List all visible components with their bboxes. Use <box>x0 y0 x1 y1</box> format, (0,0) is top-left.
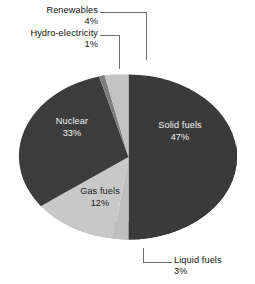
slice-label-solid-fuels: Solid fuels 47% <box>146 120 214 143</box>
slice-label-gas-fuels: Gas fuels 12% <box>64 186 136 209</box>
callout-renewables-value: 4% <box>6 16 98 27</box>
slice-label-gas-fuels-value: 12% <box>64 198 136 210</box>
leader-line-hydro-electricity <box>100 35 119 69</box>
callout-hydro-electricity-label: Hydro-electricity <box>30 28 98 38</box>
callout-hydro-electricity: Hydro-electricity 1% <box>0 28 98 50</box>
callout-renewables-label: Renewables <box>46 5 98 15</box>
leader-line-liquid-fuels <box>143 248 172 262</box>
callout-liquid-fuels: Liquid fuels 3% <box>174 255 254 277</box>
callout-liquid-fuels-value: 3% <box>174 266 254 277</box>
slice-label-nuclear-value: 33% <box>41 128 103 140</box>
callout-hydro-electricity-value: 1% <box>0 39 98 50</box>
slice-solid-fuels <box>129 75 237 240</box>
leader-line-renewables <box>100 12 146 60</box>
slice-label-solid-fuels-text: Solid fuels <box>158 120 202 130</box>
slice-label-nuclear: Nuclear 33% <box>41 116 103 139</box>
slice-label-nuclear-text: Nuclear <box>56 116 88 126</box>
pie-chart-figure: Renewables 4% Hydro-electricity 1% Liqui… <box>0 0 255 284</box>
callout-liquid-fuels-label: Liquid fuels <box>174 255 222 265</box>
pie-top-face <box>19 74 237 239</box>
slice-label-gas-fuels-text: Gas fuels <box>80 186 120 196</box>
slice-label-solid-fuels-value: 47% <box>146 132 214 144</box>
callout-renewables: Renewables 4% <box>6 5 98 27</box>
